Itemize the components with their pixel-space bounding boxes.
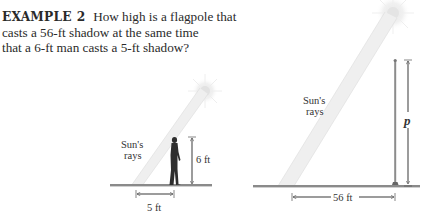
flagpole-icon xyxy=(392,59,399,185)
rays-label-left-2: rays xyxy=(124,150,142,161)
rays-label-left-1: Sun's xyxy=(121,139,143,150)
figure-left-man: 6 ft 5 ft Sun's rays xyxy=(110,74,222,213)
rays-label-right-2: rays xyxy=(306,106,324,117)
sun-ray-beam xyxy=(278,12,397,186)
height-label-6ft: 6 ft xyxy=(196,154,210,165)
figure-right-flagpole: p 56 ft Sun's rays xyxy=(253,0,420,203)
ground-line xyxy=(253,185,420,187)
height-label-p: p xyxy=(403,113,411,128)
sun-ray-beam xyxy=(131,88,208,186)
shadow-label-56ft: 56 ft xyxy=(333,192,353,203)
shadow-dimension-5ft xyxy=(136,190,174,198)
rays-label-right-1: Sun's xyxy=(303,95,325,106)
height-dimension-6ft xyxy=(188,137,196,184)
shadow-label-5ft: 5 ft xyxy=(147,202,161,213)
ground-line xyxy=(110,184,212,186)
similar-triangles-figures: 6 ft 5 ft Sun's rays xyxy=(0,0,437,219)
